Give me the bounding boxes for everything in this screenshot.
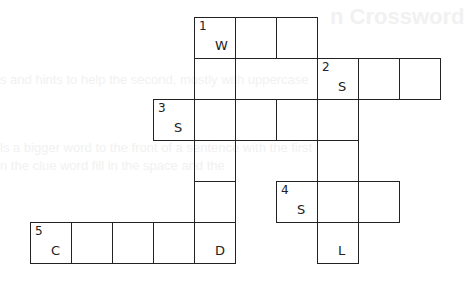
clue-number: 2 (322, 60, 330, 74)
grid-frame (235, 58, 318, 100)
crossword-cell[interactable] (194, 140, 236, 182)
clue-number: 4 (281, 183, 289, 197)
crossword-grid: 1W2S3S4S5CDL (0, 0, 466, 281)
cell-letter: W (215, 39, 228, 53)
crossword-cell[interactable] (71, 222, 113, 264)
cell-letter: S (338, 80, 346, 94)
crossword-cell[interactable]: L (317, 222, 359, 264)
crossword-cell[interactable] (399, 58, 441, 100)
clue-number: 1 (199, 19, 207, 33)
crossword-cell[interactable] (317, 99, 359, 141)
cell-letter: C (51, 244, 60, 258)
crossword-cell[interactable]: 3S (153, 99, 195, 141)
crossword-cell[interactable]: 4S (276, 181, 318, 223)
crossword-cell[interactable] (358, 181, 400, 223)
crossword-cell[interactable] (317, 140, 359, 182)
crossword-cell[interactable]: 5C (30, 222, 72, 264)
crossword-cell[interactable]: 2S (317, 58, 359, 100)
crossword-cell[interactable] (153, 222, 195, 264)
crossword-cell[interactable]: D (194, 222, 236, 264)
crossword-cell[interactable] (194, 99, 236, 141)
cell-letter: S (297, 203, 305, 217)
crossword-cell[interactable] (276, 99, 318, 141)
cell-letter: D (215, 244, 225, 258)
crossword-cell[interactable] (276, 17, 318, 59)
crossword-cell[interactable] (235, 17, 277, 59)
crossword-cell[interactable]: 1W (194, 17, 236, 59)
cell-letter: S (174, 121, 182, 135)
crossword-cell[interactable] (112, 222, 154, 264)
clue-number: 3 (158, 101, 166, 115)
clue-number: 5 (35, 224, 43, 238)
crossword-cell[interactable] (358, 58, 400, 100)
crossword-cell[interactable] (317, 181, 359, 223)
crossword-cell[interactable] (235, 99, 277, 141)
crossword-cell[interactable] (194, 181, 236, 223)
cell-letter: L (338, 244, 345, 258)
crossword-cell[interactable] (194, 58, 236, 100)
